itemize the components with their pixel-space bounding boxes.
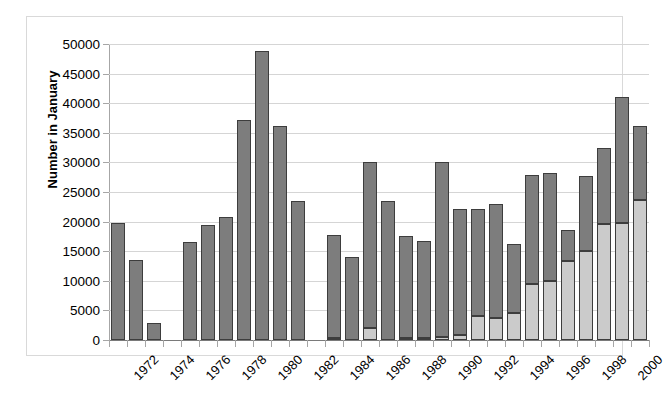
bar-1984 xyxy=(327,235,340,340)
y-axis-tick xyxy=(103,251,109,252)
x-axis-tick xyxy=(199,340,200,347)
y-axis-tick xyxy=(103,222,109,223)
bar-1974 xyxy=(147,323,160,340)
bar-segment-lower xyxy=(615,223,628,340)
x-axis-tick-label: 1982 xyxy=(310,352,341,383)
bar-segment-upper xyxy=(219,217,232,340)
x-axis-tick xyxy=(451,340,452,347)
bar-segment-upper xyxy=(561,230,574,261)
bar-1997 xyxy=(561,230,574,340)
x-axis-tick xyxy=(577,340,578,347)
bar-1993 xyxy=(489,204,502,340)
y-axis-tick xyxy=(103,281,109,282)
y-axis-tick xyxy=(103,192,109,193)
x-axis-tick xyxy=(325,340,326,347)
y-axis-tick xyxy=(103,74,109,75)
bar-segment-upper xyxy=(525,175,538,285)
gridline xyxy=(109,103,649,104)
bar-segment-lower xyxy=(363,328,376,340)
bar-segment-upper xyxy=(471,209,484,317)
x-axis-tick xyxy=(127,340,128,347)
x-axis-tick xyxy=(253,340,254,347)
bar-1994 xyxy=(507,244,520,340)
bar-1981 xyxy=(273,126,286,340)
y-axis-tick xyxy=(103,103,109,104)
x-axis-tick xyxy=(433,340,434,347)
bar-segment-lower xyxy=(561,261,574,340)
bar-1991 xyxy=(453,209,466,340)
x-axis-tick-label: 1972 xyxy=(130,352,161,383)
x-axis-tick xyxy=(217,340,218,347)
bar-segment-lower xyxy=(435,337,448,340)
x-axis-tick-label: 1996 xyxy=(562,352,593,383)
y-axis-tick xyxy=(103,162,109,163)
x-axis-tick-label: 1980 xyxy=(274,352,305,383)
bar-segment-upper xyxy=(273,126,286,340)
x-axis-tick-label: 1984 xyxy=(346,352,377,383)
bar-1985 xyxy=(345,257,358,340)
bar-segment-upper xyxy=(201,225,214,340)
x-axis-tick xyxy=(271,340,272,347)
x-axis-tick xyxy=(397,340,398,347)
x-axis-tick xyxy=(415,340,416,347)
gridline xyxy=(109,133,649,134)
x-axis-tick xyxy=(649,340,650,347)
bar-segment-upper xyxy=(291,201,304,340)
bar-1972 xyxy=(111,223,124,340)
bar-segment-upper xyxy=(111,223,124,340)
bar-segment-lower xyxy=(507,313,520,340)
gridline xyxy=(109,162,649,163)
bar-1977 xyxy=(201,225,214,340)
bar-segment-upper xyxy=(453,209,466,335)
x-axis-tick-label: 1974 xyxy=(166,352,197,383)
x-axis-tick xyxy=(631,340,632,347)
bar-1986 xyxy=(363,162,376,340)
bar-segment-upper xyxy=(435,162,448,337)
gridline xyxy=(109,44,649,45)
bar-segment-upper xyxy=(615,97,628,223)
bar-segment-upper xyxy=(417,241,430,337)
bar-1979 xyxy=(237,120,250,340)
bar-segment-lower xyxy=(489,318,502,340)
bar-1978 xyxy=(219,217,232,340)
x-axis-tick xyxy=(235,340,236,347)
y-axis-tick-label: 0 xyxy=(92,333,100,348)
x-axis-tick xyxy=(109,340,110,347)
x-axis-tick xyxy=(505,340,506,347)
bar-segment-upper xyxy=(147,323,160,340)
x-axis-tick xyxy=(343,340,344,347)
bar-1976 xyxy=(183,242,196,340)
y-axis-tick-label: 45000 xyxy=(62,66,100,81)
bar-1982 xyxy=(291,201,304,340)
y-axis-tick-label: 30000 xyxy=(62,155,100,170)
x-axis-tick-label: 1988 xyxy=(418,352,449,383)
bar-2001 xyxy=(633,126,646,340)
bar-segment-lower xyxy=(543,281,556,340)
bar-segment-upper xyxy=(597,148,610,224)
x-axis-tick-label: 1992 xyxy=(490,352,521,383)
x-axis-tick-label: 2000 xyxy=(634,352,665,383)
bar-segment-upper xyxy=(543,173,556,281)
x-axis-tick-label: 1976 xyxy=(202,352,233,383)
x-axis-tick xyxy=(595,340,596,347)
x-axis-tick xyxy=(145,340,146,347)
bar-segment-upper xyxy=(129,260,142,340)
gridline xyxy=(109,222,649,223)
x-axis-tick xyxy=(163,340,164,347)
bar-segment-upper xyxy=(345,257,358,340)
bar-segment-lower xyxy=(453,335,466,340)
bar-segment-upper xyxy=(579,176,592,251)
bar-segment-upper xyxy=(507,244,520,313)
y-axis-tick-label: 10000 xyxy=(62,273,100,288)
bar-1990 xyxy=(435,162,448,340)
x-axis-tick-label: 1998 xyxy=(598,352,629,383)
y-axis-tick-label: 50000 xyxy=(62,37,100,52)
y-axis-tick xyxy=(103,133,109,134)
chart-frame: Number in January 0500010000150002000025… xyxy=(26,16,623,356)
bar-segment-lower xyxy=(399,338,412,340)
x-axis-tick xyxy=(289,340,290,347)
y-axis-tick xyxy=(103,310,109,311)
x-axis-tick xyxy=(541,340,542,347)
y-axis-tick xyxy=(103,44,109,45)
x-axis-tick xyxy=(469,340,470,347)
